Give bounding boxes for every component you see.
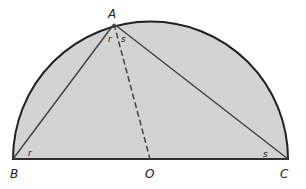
label-point-o: O <box>145 167 154 181</box>
label-point-a: A <box>107 7 116 21</box>
label-point-b: B <box>10 167 18 181</box>
semicircle <box>13 22 288 159</box>
label-angle-c-s: s <box>263 149 268 159</box>
diagram-canvas: A B C O r s r s <box>0 0 306 189</box>
label-point-c: C <box>280 167 289 181</box>
label-angle-a-s: s <box>121 34 126 44</box>
